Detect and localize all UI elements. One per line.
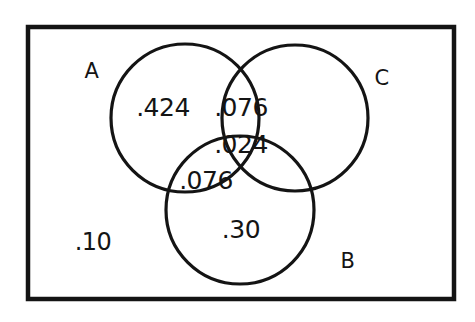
region-value-ab-only: .076: [179, 168, 233, 193]
venn-diagram-figure: A C B .424 .076 .024 .076 .30 .10: [0, 0, 475, 322]
region-value-ac-only: .076: [214, 95, 268, 120]
set-label-a: A: [85, 61, 100, 82]
region-value-a-only: .424: [136, 95, 190, 120]
set-label-c: C: [374, 68, 389, 89]
region-value-b-only: .30: [222, 217, 260, 242]
region-value-abc: .024: [214, 132, 268, 157]
set-label-b: B: [341, 251, 356, 272]
region-value-outside: .10: [75, 230, 112, 254]
venn-diagram-canvas: [0, 0, 475, 322]
